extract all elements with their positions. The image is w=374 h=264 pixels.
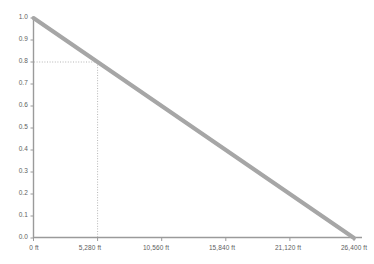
chart-plot-area bbox=[0, 0, 374, 264]
chart-container: 1.0 0.9 0.8 0.7 0.6 0.5 0.4 0.3 0.2 0.1 … bbox=[0, 0, 374, 264]
x-tick-label-10560: 10,560 ft bbox=[128, 245, 184, 252]
x-tick-label-21120: 21,120 ft bbox=[260, 245, 316, 252]
x-tick-label-5280: 5,280 ft bbox=[64, 245, 116, 252]
y-tick-label-0-4: 0.4 bbox=[8, 146, 28, 153]
y-tick-label-0-0: 0.0 bbox=[8, 234, 28, 241]
y-tick-label-0-5: 0.5 bbox=[8, 124, 28, 131]
x-tick-label-26400: 26,400 ft bbox=[326, 245, 374, 252]
y-tick-label-0-8: 0.8 bbox=[8, 58, 28, 65]
y-tick-label-1-0: 1.0 bbox=[8, 14, 28, 21]
data-series-line bbox=[34, 18, 355, 238]
x-tick-label-0: 0 ft bbox=[14, 245, 54, 252]
y-tick-label-0-2: 0.2 bbox=[8, 190, 28, 197]
x-tick-label-15840: 15,840 ft bbox=[194, 245, 250, 252]
x-axis-ticks bbox=[34, 238, 355, 241]
y-tick-label-0-7: 0.7 bbox=[8, 80, 28, 87]
y-tick-label-0-9: 0.9 bbox=[8, 36, 28, 43]
y-tick-label-0-3: 0.3 bbox=[8, 168, 28, 175]
y-tick-label-0-1: 0.1 bbox=[8, 212, 28, 219]
y-tick-label-0-6: 0.6 bbox=[8, 102, 28, 109]
